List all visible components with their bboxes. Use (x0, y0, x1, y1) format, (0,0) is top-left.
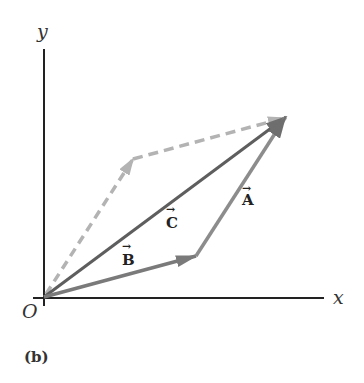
vector-b-label: B (122, 251, 135, 269)
vector-a-dashed (46, 159, 133, 294)
vector-c-label: C (166, 214, 178, 232)
y-axis-label: y (36, 20, 48, 42)
vector-a (196, 118, 285, 256)
x-axis-label: x (333, 286, 344, 308)
figure-caption: (b) (24, 348, 49, 366)
origin-label: O (22, 300, 38, 322)
vector-addition-diagram: y x O → B → C → A (b) (0, 0, 364, 383)
vector-a-label: A (241, 191, 254, 209)
